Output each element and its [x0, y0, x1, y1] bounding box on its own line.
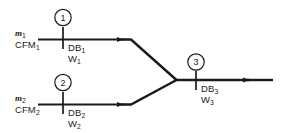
stream-2-state-labels: DB2 W2: [68, 107, 85, 129]
stream-1-humidity-ratio: W1: [68, 53, 85, 64]
stream-1-state-labels: DB1 W1: [68, 42, 85, 64]
stream-2-humidity-ratio: W2: [68, 118, 85, 129]
stream-2-humidity-ratio-text: W: [68, 118, 77, 129]
stream-3-dry-bulb-text: DB: [201, 83, 214, 94]
stream-1-volume-flow-text: CFM: [15, 39, 36, 50]
stream-3-humidity-ratio: W3: [201, 94, 218, 105]
stream-1-dry-bulb-sub: 1: [81, 47, 85, 54]
state-point-3-number: 3: [193, 57, 198, 67]
stream-1-dry-bulb: DB1: [68, 42, 85, 53]
stream-1-mass-flow: m1: [15, 27, 40, 39]
state-point-2-number: 2: [60, 78, 65, 88]
stream-2-mass-flow-sub: 2: [22, 97, 26, 104]
stream-3-dry-bulb: DB3: [201, 83, 218, 94]
stream-1-humidity-ratio-text: W: [68, 53, 77, 64]
stream-2-volume-flow: CFM2: [15, 104, 40, 115]
stream-2-volume-flow-text: CFM: [15, 104, 36, 115]
stream-1-humidity-ratio-sub: 1: [77, 58, 81, 65]
process-flow-diagram: 1 2 3 m1 CFM1 DB1 W1 m2 CFM2: [0, 0, 287, 133]
stream-2-dry-bulb: DB2: [68, 107, 85, 118]
flow-lines-canvas: 1 2 3: [0, 0, 287, 133]
stream-2-merge-leg: [121, 80, 177, 105]
stream-2-inlet-labels: m2 CFM2: [15, 92, 40, 115]
stream-3-dry-bulb-sub: 3: [214, 88, 218, 95]
stream-3-state-labels: DB3 W3: [201, 83, 218, 105]
stream-1-inlet-labels: m1 CFM1: [15, 27, 40, 50]
stream-2-humidity-ratio-sub: 2: [77, 123, 81, 130]
stream-2-mass-flow: m2: [15, 92, 40, 104]
stream-2-dry-bulb-sub: 2: [81, 112, 85, 119]
stream-1-volume-flow: CFM1: [15, 39, 40, 50]
stream-1-dry-bulb-text: DB: [68, 42, 81, 53]
state-point-1-number: 1: [60, 13, 65, 23]
stream-1-mass-flow-sub: 1: [22, 32, 26, 39]
stream-3-humidity-ratio-sub: 3: [210, 99, 214, 106]
stream-2-dry-bulb-text: DB: [68, 107, 81, 118]
stream-1-merge-leg: [121, 40, 177, 81]
stream-1-volume-flow-sub: 1: [36, 44, 40, 51]
stream-3-humidity-ratio-text: W: [201, 94, 210, 105]
stream-2-volume-flow-sub: 2: [36, 109, 40, 116]
